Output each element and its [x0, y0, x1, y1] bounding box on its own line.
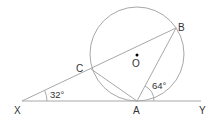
- label-b: B: [178, 22, 185, 33]
- center-dot: [136, 54, 139, 57]
- angle-label-x: 32°: [50, 89, 65, 100]
- label-x: X: [14, 105, 21, 116]
- label-o: O: [132, 58, 140, 69]
- label-y: Y: [199, 105, 206, 116]
- geometry-diagram: O B C X A Y 32° 64°: [0, 0, 215, 119]
- angle-label-a: 64°: [152, 80, 167, 91]
- label-a: A: [133, 105, 140, 116]
- chord-ca: [91, 69, 137, 101]
- diagram-canvas: O B C X A Y 32° 64°: [0, 0, 215, 119]
- angle-arc-x: [45, 90, 47, 101]
- label-c: C: [76, 63, 83, 74]
